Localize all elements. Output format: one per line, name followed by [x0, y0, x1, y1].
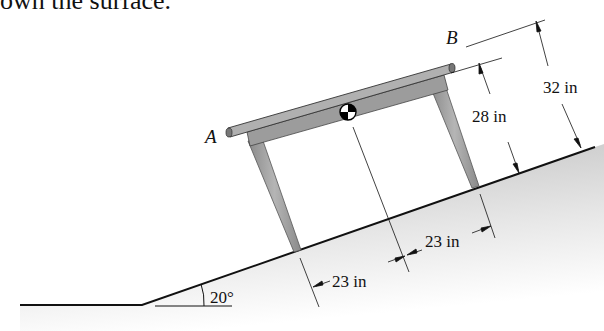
point-a-label: A: [203, 126, 217, 147]
tabletop: [226, 64, 455, 138]
right-leg: [430, 82, 479, 188]
dim-label-28: 28 in: [472, 107, 507, 126]
point-b-label: B: [446, 27, 458, 48]
left-leg: [248, 138, 301, 252]
dim-label-left-23: 23 in: [332, 272, 367, 291]
ext-line-28: [451, 58, 502, 73]
dim-label-right-23: 23 in: [425, 232, 460, 251]
incline-table-diagram: 20° 23 in 23 in 28 i: [0, 0, 604, 331]
center-of-gravity-icon: [340, 104, 356, 120]
angle-label: 20°: [210, 288, 234, 307]
dim-label-32: 32 in: [543, 78, 578, 97]
ground: [20, 144, 604, 331]
ext-line-32: [466, 20, 545, 47]
